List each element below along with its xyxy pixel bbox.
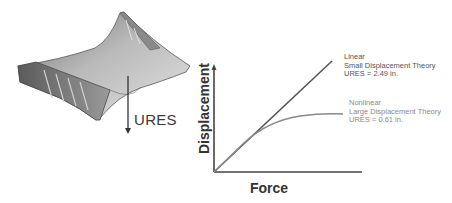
- ures-label: URES: [134, 111, 177, 128]
- x-axis-label: Force: [250, 180, 288, 196]
- chart-axes: [212, 64, 363, 172]
- nonlinear-ures-value: URES = 0.61 in.: [349, 116, 441, 125]
- linear-annotation: Linear Small Displacement Theory URES = …: [344, 53, 436, 79]
- deformed-shell-model: [18, 12, 190, 120]
- nonlinear-curve: [214, 114, 343, 172]
- nonlinear-annotation: Nonlinear Large Displacement Theory URES…: [349, 99, 441, 125]
- linear-ures-value: URES = 2.49 in.: [344, 70, 436, 79]
- figure: URES Displacement Force Linear Small Dis…: [0, 0, 452, 203]
- y-axis-label: Displacement: [196, 63, 212, 154]
